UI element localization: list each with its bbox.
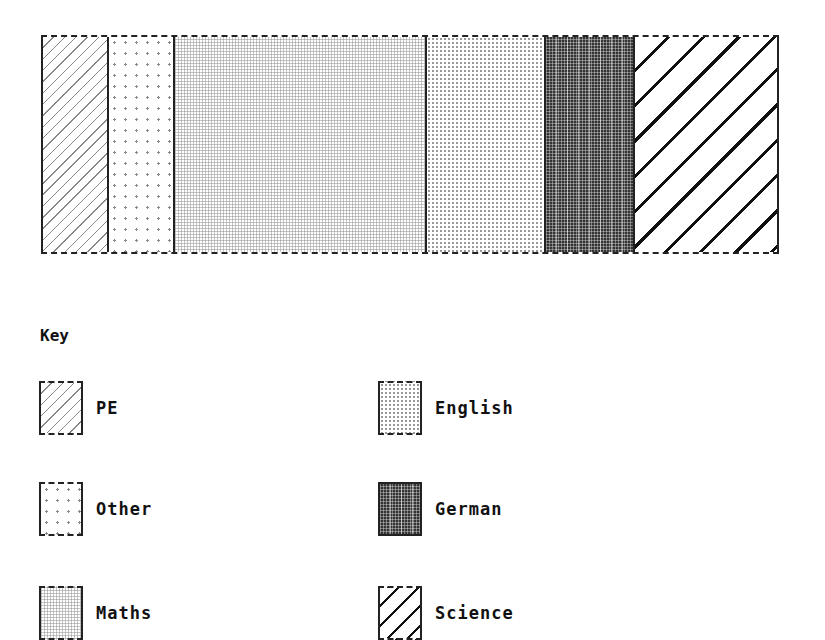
legend-item-pe: PE: [39, 381, 118, 435]
legend-item-maths: Maths: [39, 586, 152, 640]
legend-item-other: Other: [39, 482, 152, 536]
segment-pe: [43, 37, 109, 252]
legend-label: Maths: [96, 603, 152, 623]
other-swatch-icon: [39, 482, 83, 536]
stacked-bar: [41, 35, 779, 254]
segment-german: [546, 37, 635, 252]
legend-label: English: [435, 398, 514, 418]
legend-item-science: Science: [378, 586, 514, 640]
segment-science: [635, 37, 777, 252]
english-swatch-icon: [378, 381, 422, 435]
legend-label: German: [435, 499, 502, 519]
segment-maths: [175, 37, 427, 252]
science-swatch-icon: [378, 586, 422, 640]
pe-swatch-icon: [39, 381, 83, 435]
legend-label: Other: [96, 499, 152, 519]
segment-english: [427, 37, 546, 252]
segment-other: [109, 37, 175, 252]
legend-label: Science: [435, 603, 514, 623]
legend-item-german: German: [378, 482, 502, 536]
legend-item-english: English: [378, 381, 514, 435]
maths-swatch-icon: [39, 586, 83, 640]
legend-title: Key: [40, 326, 69, 345]
german-swatch-icon: [378, 482, 422, 536]
legend-label: PE: [96, 398, 118, 418]
